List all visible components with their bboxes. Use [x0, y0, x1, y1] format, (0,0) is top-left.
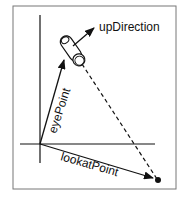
- camera-diagram: upDirection eyePoint lookatPoint: [0, 0, 189, 200]
- camera-icon: [58, 33, 87, 68]
- up-direction-vector: [73, 28, 94, 46]
- lookat-point-dot: [155, 177, 161, 183]
- up-direction-label: upDirection: [99, 20, 160, 34]
- lookat-point-label: lookatPoint: [59, 149, 121, 179]
